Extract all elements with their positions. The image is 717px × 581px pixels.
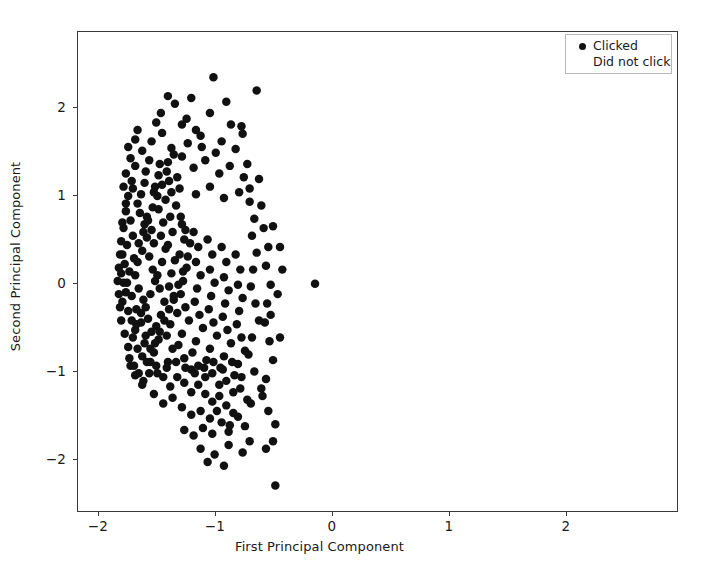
data-point	[119, 182, 127, 190]
data-point	[238, 130, 246, 138]
data-point	[159, 399, 167, 407]
data-point	[276, 333, 284, 341]
data-point	[139, 228, 147, 236]
data-point	[213, 331, 221, 339]
data-point	[234, 412, 242, 420]
data-point	[223, 326, 231, 334]
data-point	[174, 280, 182, 288]
data-point	[160, 297, 168, 305]
data-point	[134, 284, 142, 292]
data-point	[180, 379, 188, 387]
data-point	[220, 273, 228, 281]
data-point	[198, 143, 206, 151]
data-point	[237, 122, 245, 130]
data-point	[124, 143, 132, 151]
data-point	[170, 292, 178, 300]
data-point	[245, 197, 253, 205]
data-point	[222, 401, 230, 409]
data-point	[203, 235, 211, 243]
data-point	[165, 305, 173, 313]
data-point	[151, 339, 159, 347]
data-point	[219, 313, 227, 321]
data-point	[147, 226, 155, 234]
data-point	[141, 303, 149, 311]
data-point	[144, 216, 152, 224]
data-point	[206, 265, 214, 273]
legend-marker-hollow-circle-icon	[571, 59, 593, 66]
data-point	[189, 164, 197, 172]
data-point	[164, 158, 172, 166]
data-point	[129, 333, 137, 341]
data-point	[146, 290, 154, 298]
data-point	[166, 382, 174, 390]
data-point	[173, 373, 181, 381]
data-point	[234, 280, 242, 288]
legend-box[interactable]: Clicked Did not click	[565, 34, 672, 74]
data-point	[134, 239, 142, 247]
y-tick-label: 1	[57, 187, 66, 203]
data-point	[233, 320, 241, 328]
data-point	[173, 309, 181, 317]
data-point	[187, 388, 195, 396]
data-point	[171, 99, 179, 107]
data-point	[164, 92, 172, 100]
data-point	[200, 363, 208, 371]
data-point	[133, 345, 141, 353]
data-point	[189, 431, 197, 439]
data-point	[133, 199, 141, 207]
x-tick-mark	[332, 512, 333, 516]
data-point	[192, 337, 200, 345]
data-point	[124, 192, 132, 200]
x-tick-label: −2	[88, 518, 108, 534]
data-point	[157, 231, 165, 239]
data-point	[130, 254, 138, 262]
data-point	[185, 316, 193, 324]
data-point	[276, 243, 284, 251]
data-point	[212, 148, 220, 156]
data-point	[115, 263, 123, 271]
data-point	[263, 299, 271, 307]
data-point	[113, 277, 121, 285]
data-point	[259, 224, 267, 232]
data-point	[248, 231, 256, 239]
data-point	[153, 192, 161, 200]
data-point	[161, 196, 169, 204]
data-point	[164, 241, 172, 249]
scatter-plot-figure: 2 1 0 −1 −2 −2 −1 0 1 2 First Principal …	[0, 0, 717, 581]
data-point	[269, 437, 277, 445]
data-point	[165, 177, 173, 185]
data-point	[189, 228, 197, 236]
data-point	[236, 384, 244, 392]
data-point	[191, 297, 199, 305]
data-point	[262, 375, 270, 383]
data-point	[257, 384, 265, 392]
legend-entry-clicked[interactable]: Clicked	[571, 38, 665, 54]
data-point	[178, 152, 186, 160]
data-point	[145, 156, 153, 164]
data-point	[159, 218, 167, 226]
data-point	[129, 231, 137, 239]
data-point	[195, 311, 203, 319]
data-point	[134, 369, 142, 377]
data-point	[130, 362, 138, 370]
data-point	[138, 247, 146, 255]
data-point	[258, 392, 266, 400]
data-point	[255, 175, 263, 183]
data-point	[273, 290, 281, 298]
data-point	[206, 109, 214, 117]
data-point	[266, 311, 274, 319]
data-point	[172, 201, 180, 209]
data-point	[175, 250, 183, 258]
data-point	[168, 394, 176, 402]
data-point	[265, 337, 273, 345]
data-point	[116, 303, 124, 311]
legend-entry-did-not-click[interactable]: Did not click	[571, 54, 665, 70]
data-point	[231, 145, 239, 153]
data-point	[206, 345, 214, 353]
data-point	[262, 262, 270, 270]
data-point	[210, 450, 218, 458]
data-point	[219, 365, 227, 373]
data-point	[278, 265, 286, 273]
data-point	[158, 129, 166, 137]
data-point	[192, 258, 200, 266]
